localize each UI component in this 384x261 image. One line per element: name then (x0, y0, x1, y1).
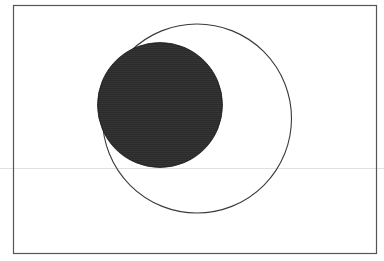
filled-circle (98, 43, 223, 168)
diagram-canvas (0, 0, 384, 261)
